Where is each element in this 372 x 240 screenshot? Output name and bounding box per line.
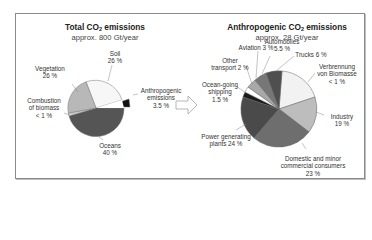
label-vegetation: Vegetation26 % [30,65,70,80]
label-power: Power generatingplants 24 % [196,133,256,148]
left-pie [68,80,130,136]
label-domestic: Domestic and minorcommercial consumers23… [278,155,348,177]
label-shipping: Ocean-goingshipping1.5 % [200,81,240,103]
label-industry: Industry19 % [326,113,358,128]
label-biomasse: Verbrennungvon Biomasse< 1 % [314,63,360,85]
label-other-transport: Othertransport 2 % [210,57,250,72]
label-anthropogenic: Anthropogenicemissions3.5 % [136,87,186,109]
label-trucks: Trucks 6 % [293,51,329,58]
label-soil: Soil26 % [100,50,130,65]
label-oceans: Oceans40 % [95,142,125,157]
label-combustion: Combustionof biomass< 1 % [24,97,64,119]
